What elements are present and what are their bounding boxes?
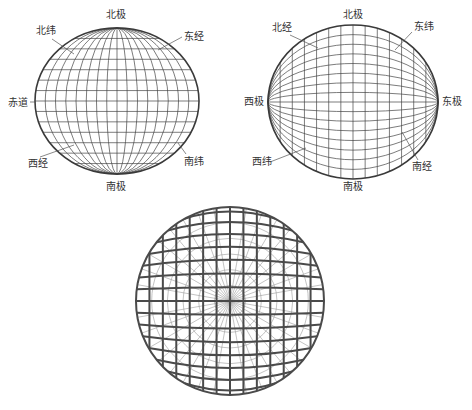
globe-b-label-north-long: 北经: [272, 21, 292, 33]
globe-a-label-east-long: 东经: [184, 30, 204, 42]
globe-a-label-west-long: 西经: [28, 157, 48, 169]
globe-b-label-east-pole: 东极: [442, 95, 462, 107]
globe-b-label-west-pole: 西极: [244, 95, 264, 107]
globe-b-label-south-pole: 南极: [343, 180, 363, 192]
globe-vertical-axis: 北极北纬东经赤道西经南纬南极: [8, 8, 204, 192]
globe-b-label-east-lat: 东纬: [414, 20, 434, 32]
globe-a-label-equator: 赤道: [8, 96, 28, 108]
globe-polar-view: [136, 207, 324, 395]
globe-b-label-south-long: 南经: [412, 160, 432, 172]
globe-b-label-west-lat: 西纬: [252, 155, 272, 167]
globe-horizontal-axis: 北极北经东纬西极东极西纬南经南极: [244, 8, 462, 192]
globe-b-label-north-pole: 北极: [343, 8, 363, 20]
globe-a-label-south-pole: 南极: [106, 180, 126, 192]
globe-b-leader-east-lat: [395, 32, 412, 50]
globe-a-label-south-lat: 南纬: [184, 155, 204, 167]
globe-projections-figure: 北极北纬东经赤道西经南纬南极 北极北经东纬西极东极西纬南经南极: [0, 0, 472, 410]
globe-a-label-north-lat: 北纬: [36, 24, 56, 36]
globe-a-label-north-pole: 北极: [106, 8, 126, 20]
